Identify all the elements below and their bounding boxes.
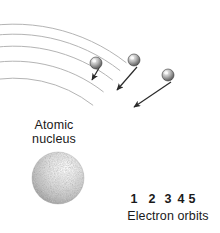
electron-2 [128, 54, 140, 66]
nucleus-label: Atomic nucleus [10, 118, 98, 146]
orbit-number-3: 3 [161, 192, 175, 206]
nucleus-sphere [32, 152, 84, 204]
electron-3 [162, 69, 174, 81]
orbit-number-5: 5 [185, 192, 199, 206]
orbit-arc-5 [0, 24, 126, 129]
transition-arrow-3 [134, 82, 171, 107]
bohr-atom-figure: Atomic nucleus 12345 Electron orbits [0, 0, 220, 233]
orbit-number-2: 2 [145, 192, 159, 206]
nucleus-label-line-1: Atomic [10, 118, 98, 132]
orbit-number-1: 1 [127, 192, 141, 206]
electron-orbits-caption: Electron orbits [118, 209, 218, 223]
electron-1 [90, 57, 102, 69]
transition-arrow-1 [92, 68, 99, 80]
nucleus-label-line-2: nucleus [10, 132, 98, 146]
